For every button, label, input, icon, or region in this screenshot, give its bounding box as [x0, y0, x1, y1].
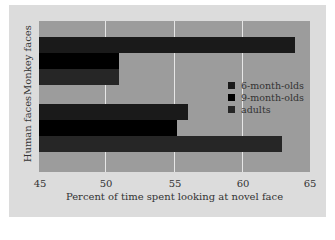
- category-label-monkey: Monkey faces: [22, 20, 34, 100]
- x-tick-55: 55: [169, 178, 182, 189]
- category-label-human: Human faces: [22, 89, 34, 169]
- legend-item-adults: adults: [228, 103, 304, 115]
- x-tick-60: 60: [237, 178, 250, 189]
- legend-label: adults: [241, 104, 271, 115]
- legend-label: 9-month-olds: [241, 92, 304, 103]
- bar-human-adults: [39, 136, 282, 152]
- x-tick-50: 50: [100, 178, 113, 189]
- bar-human-9-month: [39, 120, 177, 136]
- legend: 6-month-olds 9-month-olds adults: [228, 79, 304, 115]
- legend-swatch-icon: [228, 106, 235, 113]
- bar-human-6-month: [39, 104, 188, 120]
- legend-swatch-icon: [228, 82, 235, 89]
- legend-item-9-month: 9-month-olds: [228, 91, 304, 103]
- bar-monkey-9-month: [39, 53, 119, 69]
- x-tick-65: 65: [304, 178, 317, 189]
- legend-label: 6-month-olds: [241, 80, 304, 91]
- bar-monkey-adults: [39, 69, 119, 85]
- x-axis-label: Percent of time spent looking at novel f…: [39, 191, 310, 202]
- legend-swatch-icon: [228, 94, 235, 101]
- x-tick-45: 45: [34, 178, 47, 189]
- bar-monkey-6-month: [39, 37, 295, 53]
- legend-item-6-month: 6-month-olds: [228, 79, 304, 91]
